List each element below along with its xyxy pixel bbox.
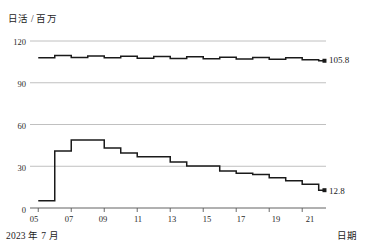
chart-container: 日活 / 百万 日期 2023 年 7 月 0 30 60 90 120 05 … [0,0,366,252]
series-path-1 [38,140,324,201]
series-end-marker-0 [322,59,326,63]
plot-area [0,0,366,252]
series-path-0 [38,55,324,60]
series-lines [38,55,326,200]
x-axis [30,208,326,212]
gridlines [30,41,326,208]
series-end-marker-1 [322,188,326,192]
